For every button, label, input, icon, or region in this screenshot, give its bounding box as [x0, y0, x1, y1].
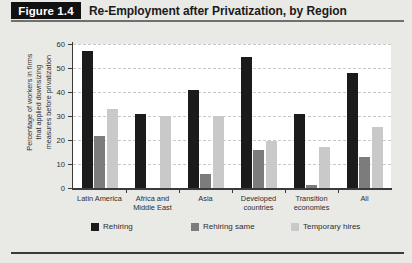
x-axis-label-line: All: [338, 194, 391, 203]
x-axis-label: Developedcountries: [232, 194, 285, 212]
bar-group: [285, 44, 338, 188]
y-axis-tick-label: 30: [49, 112, 65, 121]
bar-group: [73, 44, 126, 188]
legend-item: Rehiring same: [191, 222, 255, 231]
x-axis-label-line: Developed: [232, 194, 285, 203]
chart-legend: RehiringRehiring sameTemporary hires: [73, 222, 391, 236]
bar: [213, 116, 224, 188]
x-axis-label-line: countries: [232, 203, 285, 212]
y-axis-tick-label: 10: [49, 160, 65, 169]
x-axis-label-line: Africa and: [126, 194, 179, 203]
figure-title: Re-Employment after Privatization, by Re…: [89, 2, 347, 19]
bar: [188, 90, 199, 188]
x-axis-label: Asia: [179, 194, 232, 203]
bar: [294, 114, 305, 188]
bar: [372, 127, 383, 188]
bar-group: [232, 44, 285, 188]
x-axis-separator: [232, 188, 233, 193]
x-axis-label-line: Transition: [285, 194, 338, 203]
y-axis-title-line-1: Percentage of workers in firms: [25, 27, 34, 177]
figure-container: Figure 1.4 Re-Employment after Privatiza…: [0, 0, 412, 263]
legend-label: Temporary hires: [303, 222, 360, 231]
legend-swatch: [291, 223, 299, 231]
legend-label: Rehiring: [103, 222, 133, 231]
bar: [253, 150, 264, 188]
bar: [359, 157, 370, 188]
bars-layer: [73, 44, 391, 188]
figure-number-badge: Figure 1.4: [11, 2, 81, 19]
bar: [306, 185, 317, 188]
y-axis-tick-label: 0: [49, 184, 65, 193]
x-axis-label: Transitioneconomies: [285, 194, 338, 212]
y-axis-title-line-3: measures before privatization: [44, 27, 53, 177]
chart-panel: Percentage of workers in firms that appl…: [11, 26, 404, 242]
x-axis-separator: [179, 188, 180, 193]
bar: [94, 136, 105, 188]
bar: [266, 141, 277, 188]
bar: [347, 73, 358, 188]
legend-swatch: [191, 223, 199, 231]
x-axis-label-line: Middle East: [126, 203, 179, 212]
bar: [319, 147, 330, 188]
bar-group: [126, 44, 179, 188]
x-axis-separator: [285, 188, 286, 193]
x-axis-label: Latin America: [73, 194, 126, 203]
y-axis-tick-label: 50: [49, 64, 65, 73]
y-axis-tick-label: 20: [49, 136, 65, 145]
y-axis-tick-label: 40: [49, 88, 65, 97]
bar: [82, 51, 93, 188]
bar: [241, 57, 252, 188]
x-axis-separator: [126, 188, 127, 193]
x-axis-label-line: Latin America: [73, 194, 126, 203]
figure-header: Figure 1.4 Re-Employment after Privatiza…: [0, 0, 412, 24]
y-axis-tick-label: 60: [49, 40, 65, 49]
x-axis-separator: [338, 188, 339, 193]
legend-item: Rehiring: [91, 222, 133, 231]
bar: [200, 174, 211, 188]
y-axis-title-line-2: that applied downsizing: [34, 27, 43, 177]
y-axis-title: Percentage of workers in firms that appl…: [25, 27, 53, 177]
x-axis-label: All: [338, 194, 391, 203]
bar: [160, 116, 171, 188]
bar-group: [179, 44, 232, 188]
legend-swatch: [91, 223, 99, 231]
header-divider: [11, 20, 404, 22]
bar-group: [338, 44, 391, 188]
legend-item: Temporary hires: [291, 222, 360, 231]
bottom-divider: [11, 252, 404, 254]
x-axis-label-line: economies: [285, 203, 338, 212]
x-axis-label-line: Asia: [179, 194, 232, 203]
x-axis-label: Africa andMiddle East: [126, 194, 179, 212]
bar: [107, 109, 118, 188]
bar: [135, 114, 146, 188]
legend-label: Rehiring same: [203, 222, 255, 231]
